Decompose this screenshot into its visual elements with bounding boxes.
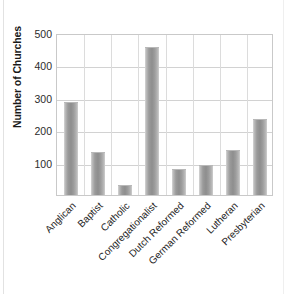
x-axis-tick-label: Anglican bbox=[0, 200, 77, 294]
x-axis-tick-labels: AnglicanBaptistCatholicCongregationalist… bbox=[0, 0, 287, 294]
bar-chart: Number of Churches 500400300200100 Angli… bbox=[0, 0, 287, 294]
